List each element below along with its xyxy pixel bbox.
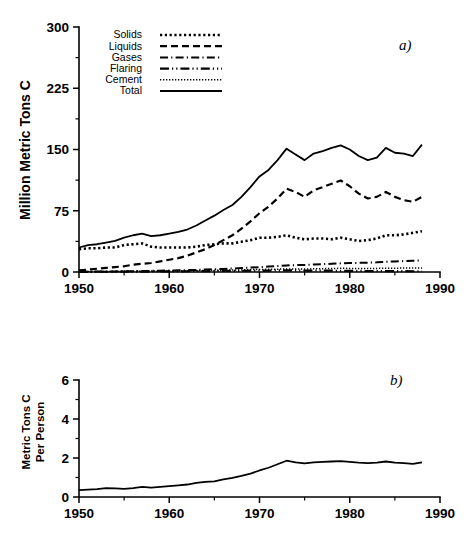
y-tick-label: 225 bbox=[46, 81, 69, 96]
y-tick-label: 150 bbox=[46, 142, 69, 157]
figure-background bbox=[0, 0, 468, 551]
legend-label-total: Total bbox=[120, 84, 142, 96]
panel-b-tag: b) bbox=[390, 372, 403, 389]
x-tick-label: 1970 bbox=[244, 506, 274, 521]
panel-a-tag: a) bbox=[399, 37, 412, 54]
panel-b-y-axis-title-line1: Metric Tons C bbox=[20, 394, 32, 469]
x-tick-label: 1950 bbox=[64, 281, 94, 296]
figure-root: 07515022530019501960197019801990 SolidsL… bbox=[0, 0, 468, 551]
x-tick-label: 1950 bbox=[64, 506, 94, 521]
x-tick-label: 1980 bbox=[335, 506, 365, 521]
y-tick-label: 0 bbox=[61, 265, 69, 280]
emissions-figure: 07515022530019501960197019801990 SolidsL… bbox=[0, 0, 468, 551]
x-tick-label: 1960 bbox=[154, 281, 184, 296]
x-tick-label: 1990 bbox=[425, 281, 455, 296]
y-tick-label: 2 bbox=[61, 451, 69, 466]
panel-a-y-axis-title: Million Metric Tons C bbox=[17, 80, 33, 220]
y-tick-label: 4 bbox=[61, 412, 69, 427]
y-tick-label: 6 bbox=[61, 373, 69, 388]
legend-label-cement: Cement bbox=[105, 73, 142, 85]
panel-b-y-axis-title-line2: Per Person bbox=[34, 402, 46, 463]
y-tick-label: 300 bbox=[46, 20, 69, 35]
legend-label-flaring: Flaring bbox=[110, 62, 142, 74]
y-tick-label: 75 bbox=[54, 204, 70, 219]
legend-label-gases: Gases bbox=[112, 51, 142, 63]
legend-label-solids: Solids bbox=[113, 28, 142, 40]
x-tick-label: 1970 bbox=[244, 281, 274, 296]
x-tick-label: 1990 bbox=[425, 506, 455, 521]
legend-label-liquids: Liquids bbox=[109, 40, 142, 52]
x-tick-label: 1960 bbox=[154, 506, 184, 521]
x-tick-label: 1980 bbox=[335, 281, 365, 296]
y-tick-label: 0 bbox=[61, 490, 69, 505]
